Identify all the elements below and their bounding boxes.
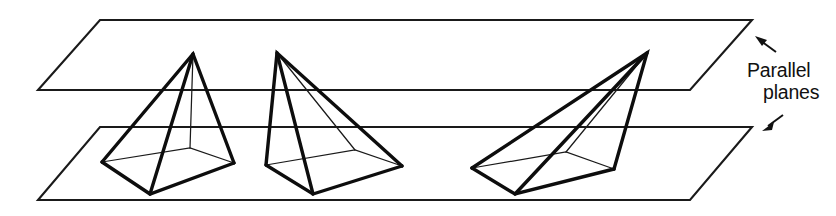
pyramid-middle-apex-front-edge <box>277 53 313 194</box>
pyramid-middle-apex-edges <box>266 53 402 166</box>
pyramid-middle-back-base-edges <box>266 150 402 166</box>
pyramid-left-back-apex-edge <box>190 54 193 148</box>
pyramid-left <box>102 54 234 194</box>
arrow-to-lower-plane-shaft <box>768 115 783 126</box>
parallel-planes-label-line1: Parallel <box>747 59 810 81</box>
pyramid-middle-front-base-edges <box>266 165 402 194</box>
arrow-to-lower-plane <box>762 115 783 131</box>
parallel-planes-label-line2: planes <box>763 81 820 103</box>
pyramid-left-apex-front-edge <box>150 54 193 194</box>
pyramid-left-apex-edges <box>102 54 234 163</box>
pyramid-middle <box>266 53 402 194</box>
pyramid-right <box>472 53 647 194</box>
pyramid-right-apex-edges <box>472 53 647 169</box>
figure-root: Parallel planes <box>0 0 836 216</box>
pyramid-left-front-base-edges <box>102 162 234 194</box>
arrow-to-upper-plane <box>755 36 776 52</box>
arrow-to-lower-plane-head <box>762 122 774 131</box>
parallel-planes-pyramids-diagram: Parallel planes <box>0 0 836 216</box>
pyramid-right-front-base-edges <box>472 168 614 194</box>
pyramid-left-back-base-edges <box>102 148 234 163</box>
